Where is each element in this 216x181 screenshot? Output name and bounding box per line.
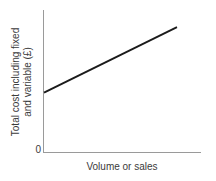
y-axis-title-line-1: Total cost including fixed (10, 28, 22, 136)
y-axis-title-line-2: and variable (£) (22, 47, 34, 116)
data-line-total-cost (44, 27, 177, 93)
chart-figure: 0 Volume or sales Total cost including f… (0, 0, 216, 181)
x-axis-title: Volume or sales (43, 161, 201, 172)
y-axis-title: Total cost including fixed and variable … (8, 11, 36, 153)
